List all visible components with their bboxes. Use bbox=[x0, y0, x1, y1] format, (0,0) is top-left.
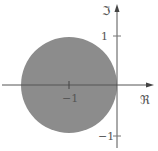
imag-tick-label-neg1: −1 bbox=[98, 130, 114, 143]
complex-plane-diagram: ℑ ℜ 1 −1 −1 bbox=[0, 0, 158, 151]
imag-tick-label-1: 1 bbox=[101, 30, 108, 43]
real-axis-label: ℜ bbox=[140, 93, 150, 107]
imag-axis-label: ℑ bbox=[102, 4, 110, 18]
imaginary-axis-arrow-icon bbox=[115, 4, 120, 12]
real-tick-label-neg1: −1 bbox=[62, 92, 78, 105]
real-axis-arrow-icon bbox=[146, 83, 154, 88]
